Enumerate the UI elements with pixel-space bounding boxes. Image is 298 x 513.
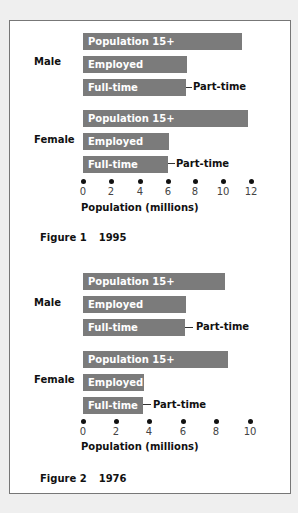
figure-2-year: 1976	[99, 473, 127, 484]
parttime-connector-female	[168, 163, 175, 164]
bar-female-employed: Employed	[83, 133, 169, 150]
tick-label: 8	[206, 426, 226, 437]
axis-dot	[81, 419, 86, 424]
bar-male-population: Population 15+	[83, 33, 242, 50]
axis-dot	[147, 419, 152, 424]
bar-female-fulltime: Full-time	[83, 156, 168, 173]
axis-dot	[221, 179, 226, 184]
axis-dot	[81, 179, 86, 184]
figure-1-year: 1995	[99, 232, 127, 243]
tick-label: 10	[240, 426, 260, 437]
tick-label: 6	[158, 186, 178, 197]
parttime-label-male: Part-time	[196, 321, 249, 332]
axis-dot	[248, 419, 253, 424]
group-label-male: Male	[34, 297, 61, 308]
group-label-female: Female	[34, 134, 75, 145]
parttime-label-female: Part-time	[153, 399, 206, 410]
figure-2-caption: Figure 21976	[40, 473, 127, 484]
bar-male-population: Population 15+	[83, 273, 225, 290]
bar-female-population: Population 15+	[83, 110, 248, 127]
tick-label: 2	[101, 186, 121, 197]
bar-male-fulltime: Full-time	[83, 79, 186, 96]
axis-dot	[214, 419, 219, 424]
parttime-connector-male	[186, 87, 192, 88]
bar-male-fulltime: Full-time	[83, 319, 185, 336]
bar-female-population: Population 15+	[83, 351, 228, 368]
axis-dot	[166, 179, 171, 184]
tick-label: 4	[139, 426, 159, 437]
figure-2-label: Figure 2	[40, 473, 87, 484]
bar-female-employed: Employed	[83, 374, 144, 391]
tick-label: 0	[73, 186, 93, 197]
axis-dot	[181, 419, 186, 424]
tick-label: 8	[185, 186, 205, 197]
bar-male-employed: Employed	[83, 56, 187, 73]
tick-label: 10	[213, 186, 233, 197]
tick-label: 0	[73, 426, 93, 437]
tick-label: 2	[106, 426, 126, 437]
x-axis-title: Population (millions)	[81, 202, 199, 213]
parttime-connector-female	[143, 404, 151, 405]
axis-dot	[249, 179, 254, 184]
parttime-label-female: Part-time	[176, 158, 229, 169]
group-label-male: Male	[34, 56, 61, 67]
tick-label: 4	[130, 186, 150, 197]
axis-dot	[114, 419, 119, 424]
tick-label: 6	[173, 426, 193, 437]
axis-dot	[193, 179, 198, 184]
parttime-connector-male	[185, 327, 193, 328]
axis-dot	[138, 179, 143, 184]
tick-label: 12	[241, 186, 261, 197]
bar-male-employed: Employed	[83, 296, 186, 313]
group-label-female: Female	[34, 374, 75, 385]
figure-1-label: Figure 1	[40, 232, 87, 243]
axis-dot	[109, 179, 114, 184]
figure-1-caption: Figure 11995	[40, 232, 127, 243]
bar-female-fulltime: Full-time	[83, 397, 143, 414]
parttime-label-male: Part-time	[193, 81, 246, 92]
x-axis-title: Population (millions)	[81, 441, 199, 452]
